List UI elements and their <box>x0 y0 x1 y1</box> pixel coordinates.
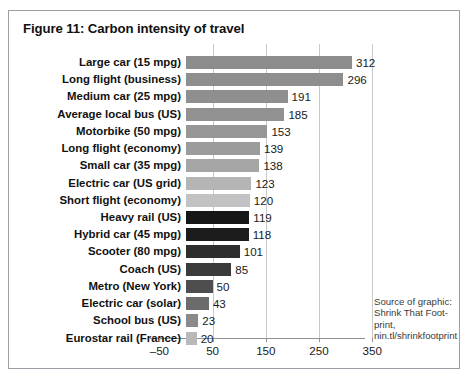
bar <box>186 125 267 138</box>
bar-value-label: 312 <box>356 56 375 69</box>
bar <box>186 108 284 121</box>
bar <box>186 245 240 258</box>
chart-row: Metro (New York)50 <box>9 280 461 297</box>
x-tick-50 <box>213 338 214 342</box>
bar-category-label: Long flight (business) <box>19 73 181 86</box>
x-tick-250 <box>319 338 320 342</box>
bar <box>186 56 352 69</box>
bar-value-label: 85 <box>235 263 248 276</box>
x-tick-150 <box>266 338 267 342</box>
bar-value-label: 118 <box>253 228 271 241</box>
bar-category-label: Hybrid car (45 mpg) <box>19 228 181 241</box>
bar-value-label: 43 <box>213 297 226 310</box>
bar-value-label: 185 <box>288 108 307 121</box>
chart-row: Short flight (economy)120 <box>9 194 461 211</box>
bar <box>186 73 343 86</box>
x-tick-label-50: 50 <box>206 344 219 357</box>
x-tick-label--50: –50 <box>150 344 169 357</box>
chart-row: Motorbike (50 mpg)153 <box>9 125 461 142</box>
x-tick--50 <box>159 338 160 342</box>
bar-category-label: Heavy rail (US) <box>19 211 181 224</box>
bar <box>186 280 213 293</box>
bar-value-label: 50 <box>217 280 230 293</box>
chart-row: Coach (US)85 <box>9 263 461 280</box>
bar-value-label: 120 <box>254 194 273 207</box>
bar-category-label: Long flight (economy) <box>19 142 181 155</box>
bar <box>186 194 250 207</box>
bar <box>186 211 249 224</box>
chart-row: Medium car (25 mpg)191 <box>9 90 461 107</box>
chart-row: Scooter (80 mpg)101 <box>9 245 461 262</box>
bar-category-label: Small car (35 mpg) <box>19 159 181 172</box>
bar <box>186 142 260 155</box>
bar-category-label: Medium car (25 mpg) <box>19 90 181 103</box>
bar <box>186 159 259 172</box>
bar <box>186 228 249 241</box>
bar <box>186 297 209 310</box>
bar-category-label: Large car (15 mpg) <box>19 56 181 69</box>
bar-value-label: 20 <box>201 332 214 345</box>
figure-frame: Figure 11: Carbon intensity of travel La… <box>8 10 460 369</box>
chart-row: Small car (35 mpg)138 <box>9 159 461 176</box>
bar-value-label: 139 <box>264 142 283 155</box>
bar-category-label: Electric car (US grid) <box>19 177 181 190</box>
bar-value-label: 23 <box>202 314 215 327</box>
chart-row: Long flight (economy)139 <box>9 142 461 159</box>
x-tick-label-150: 150 <box>256 344 275 357</box>
chart-row: Average local bus (US)185 <box>9 108 461 125</box>
chart-row: Long flight (business)296 <box>9 73 461 90</box>
page-title: Figure 11: Carbon intensity of travel <box>23 21 244 36</box>
bar-value-label: 191 <box>292 90 311 103</box>
source-note: Source of graphic: Shrink That Foot-prin… <box>374 296 462 342</box>
chart-row: Hybrid car (45 mpg)118 <box>9 228 461 245</box>
bar-category-label: Electric car (solar) <box>19 297 181 310</box>
bar <box>186 263 231 276</box>
bar-category-label: Short flight (economy) <box>19 194 181 207</box>
bar <box>186 332 197 345</box>
bar-value-label: 138 <box>263 159 282 172</box>
bar-value-label: 119 <box>253 211 271 224</box>
bar-value-label: 101 <box>244 245 263 258</box>
bar <box>186 177 251 190</box>
bar <box>186 314 198 327</box>
chart-row: Large car (15 mpg)312 <box>9 56 461 73</box>
chart-row: Heavy rail (US)119 <box>9 211 461 228</box>
bar-category-label: Scooter (80 mpg) <box>19 245 181 258</box>
bar-category-label: Metro (New York) <box>19 280 181 293</box>
bar-category-label: Eurostar rail (France) <box>19 332 181 345</box>
x-tick-label-350: 350 <box>363 344 382 357</box>
x-tick-label-250: 250 <box>309 344 328 357</box>
bar <box>186 90 288 103</box>
bar-value-label: 123 <box>255 177 274 190</box>
bar-category-label: Coach (US) <box>19 263 181 276</box>
chart-row: Electric car (US grid)123 <box>9 177 461 194</box>
bar-category-label: Motorbike (50 mpg) <box>19 125 181 138</box>
bar-value-label: 296 <box>347 73 366 86</box>
bar-category-label: Average local bus (US) <box>19 108 181 121</box>
bar-value-label: 153 <box>271 125 290 138</box>
bar-category-label: School bus (US) <box>19 314 181 327</box>
